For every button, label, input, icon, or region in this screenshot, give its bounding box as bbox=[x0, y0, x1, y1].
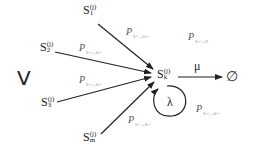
edge-label-s1-sub: Sᵢ⁽ʲ⁾→Sₖ⁽ʲ⁾ bbox=[133, 34, 149, 39]
edge-label-s3-sub: Sᵢ⁽ʲ⁾→Sₖ⁽ʲ⁾ bbox=[86, 82, 102, 87]
diagram-edges bbox=[0, 0, 253, 156]
node-sm: S(j)m bbox=[83, 131, 96, 144]
edge-label-sm-base: P bbox=[128, 114, 134, 125]
edge-label-loop: PSₖ⁽ʲ⁾→Sₖ⁽ʲ⁾ bbox=[196, 104, 220, 116]
edge-label-exit-base: P bbox=[188, 31, 194, 42]
node-s1: S(j)1 bbox=[83, 4, 96, 17]
lambda-rate-label: λ bbox=[167, 96, 173, 108]
edge-label-s1-base: P bbox=[126, 26, 132, 37]
node-s2-sub: 2 bbox=[47, 47, 54, 53]
node-s2-base: S bbox=[40, 40, 47, 54]
edge-label-sm: PSᵢ⁽ʲ⁾→Sₖ⁽ʲ⁾ bbox=[128, 115, 151, 127]
edge-label-s2: PSᵢ⁽ʲ⁾→Sₖ⁽ʲ⁾ bbox=[79, 43, 102, 55]
edge-label-s2-base: P bbox=[79, 42, 85, 53]
edge-label-s1: PSᵢ⁽ʲ⁾→Sₖ⁽ʲ⁾ bbox=[126, 27, 149, 39]
node-sm-base: S bbox=[83, 130, 90, 144]
node-s1-base: S bbox=[83, 3, 90, 17]
edge-label-s2-sub: Sᵢ⁽ʲ⁾→Sₖ⁽ʲ⁾ bbox=[86, 50, 102, 55]
node-sk-base: S bbox=[157, 67, 164, 81]
node-sm-sub: m bbox=[90, 137, 97, 143]
node-s3-sub: 3 bbox=[48, 102, 55, 108]
node-sk: S(j)k bbox=[157, 68, 170, 81]
edge-label-loop-sub: Sₖ⁽ʲ⁾→Sₖ⁽ʲ⁾ bbox=[203, 111, 220, 116]
node-s1-sub: 1 bbox=[90, 10, 97, 16]
edge-label-sm-sub: Sᵢ⁽ʲ⁾→Sₖ⁽ʲ⁾ bbox=[135, 122, 151, 127]
node-s3-base: S bbox=[41, 95, 48, 109]
set-v-label: V bbox=[17, 68, 31, 88]
edge-label-exit-sub: Sₖ⁽ʲ⁾→∅ bbox=[195, 39, 208, 44]
edge-label-loop-base: P bbox=[196, 103, 202, 114]
edge-label-s3: PSᵢ⁽ʲ⁾→Sₖ⁽ʲ⁾ bbox=[79, 75, 102, 87]
node-s3: S(j)3 bbox=[41, 96, 54, 109]
node-sk-sub: k bbox=[164, 74, 171, 80]
empty-set-node: ∅ bbox=[226, 69, 238, 83]
edge-label-s3-base: P bbox=[79, 74, 85, 85]
node-s2: S(j)2 bbox=[40, 41, 53, 54]
edge-label-exit: PSₖ⁽ʲ⁾→∅ bbox=[188, 32, 208, 44]
mu-rate-label: μ bbox=[194, 60, 200, 72]
